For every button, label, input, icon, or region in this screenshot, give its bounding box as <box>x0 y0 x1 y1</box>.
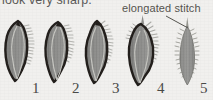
valve-specimen-3: 3 <box>86 21 120 96</box>
annotation-leader-line <box>166 16 188 28</box>
specimen-4-elongated-spine <box>141 15 144 24</box>
figure-panel: look very sharp. elongated stitch <box>0 0 213 100</box>
valve-specimen-1: 1 <box>6 21 40 96</box>
caption-top-clipped: look very sharp. <box>2 0 92 7</box>
specimen-2-number: 2 <box>72 80 80 96</box>
specimen-1-number: 1 <box>32 80 40 96</box>
valve-specimen-5: 5 <box>175 17 208 96</box>
specimen-drawing-canvas: 1 2 <box>0 0 213 100</box>
valve-specimen-4: 4 <box>126 15 165 96</box>
specimen-3-number: 3 <box>112 80 120 96</box>
specimen-4-number: 4 <box>157 80 165 96</box>
specimen-5-elongated-spine <box>186 17 189 27</box>
annotation-label-elongated-stitch: elongated stitch <box>122 2 201 14</box>
valve-specimen-2: 2 <box>46 22 80 96</box>
specimen-5-number: 5 <box>200 80 208 96</box>
